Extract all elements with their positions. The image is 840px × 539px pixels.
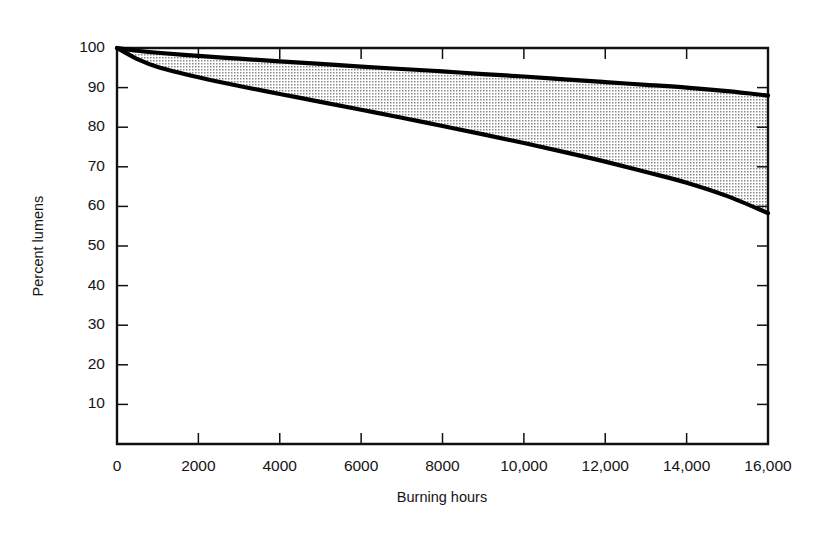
x-tick-label: 2000 — [181, 457, 216, 474]
x-tick-label: 0 — [113, 457, 122, 474]
y-tick-label: 20 — [88, 355, 106, 372]
x-axis-ticks-top — [198, 48, 686, 59]
y-tick-label: 30 — [88, 315, 106, 332]
x-tick-label: 16,000 — [744, 457, 792, 474]
y-tick-label: 80 — [88, 117, 106, 134]
x-axis-title: Burning hours — [397, 489, 487, 505]
y-tick-label: 90 — [88, 78, 106, 95]
x-axis-tick-labels: 0200040006000800010,00012,00014,00016,00… — [113, 457, 792, 474]
y-tick-label: 60 — [88, 196, 106, 213]
x-axis-ticks-bottom — [198, 433, 686, 444]
y-tick-label: 70 — [88, 157, 106, 174]
x-tick-label: 14,000 — [663, 457, 711, 474]
y-axis-title: Percent lumens — [30, 196, 46, 297]
y-axis-tick-labels: 100908070605040302010 — [79, 38, 105, 411]
chart-svg: 100908070605040302010 020004000600080001… — [0, 0, 840, 539]
x-tick-label: 12,000 — [582, 457, 630, 474]
y-tick-label: 50 — [88, 236, 106, 253]
y-axis-ticks-left — [117, 88, 128, 405]
y-tick-label: 100 — [79, 38, 105, 55]
y-tick-label: 40 — [88, 276, 106, 293]
y-tick-label: 10 — [88, 394, 106, 411]
chart-figure: 100908070605040302010 020004000600080001… — [0, 0, 840, 539]
x-tick-label: 10,000 — [500, 457, 548, 474]
x-tick-label: 4000 — [263, 457, 298, 474]
x-tick-label: 6000 — [344, 457, 379, 474]
x-tick-label: 8000 — [425, 457, 460, 474]
